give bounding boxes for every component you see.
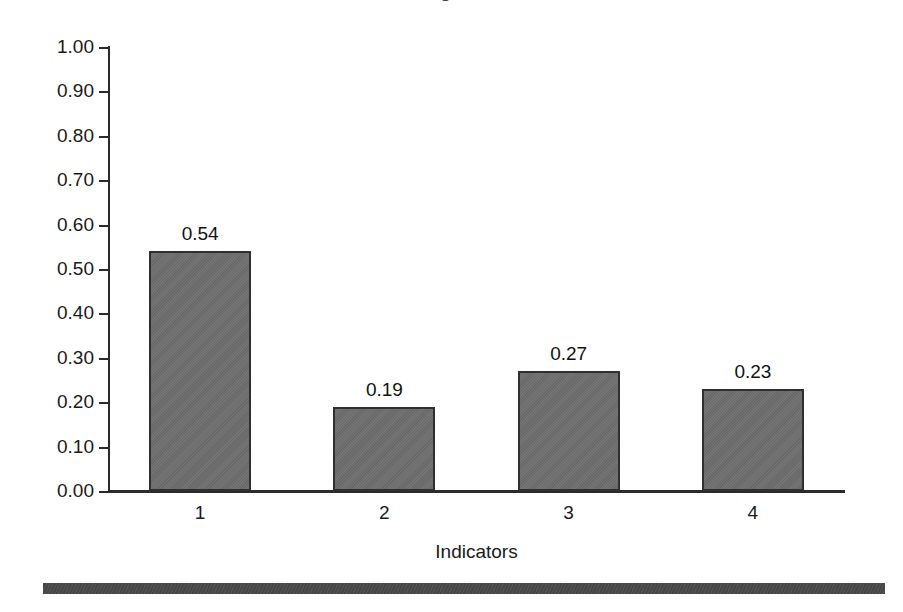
y-axis-tick-mark — [99, 402, 108, 404]
bar-value-label: 0.27 — [518, 343, 620, 365]
y-axis-tick-label: 0.70 — [57, 169, 94, 190]
y-axis-tick-mark — [99, 313, 108, 315]
bar-value-label: 0.19 — [333, 379, 435, 401]
y-axis-tick-label: 0.10 — [57, 436, 94, 457]
y-axis-tick-mark — [99, 225, 108, 227]
y-axis-tick-label: 0.80 — [57, 125, 94, 146]
bar-value-label: 0.23 — [702, 361, 804, 383]
y-axis-tick-mark — [99, 91, 108, 93]
y-axis-tick-label: 0.90 — [57, 80, 94, 101]
y-axis-tick-label: 0.40 — [57, 302, 94, 323]
y-axis-tick-label: 0.30 — [57, 347, 94, 368]
y-axis-tick-mark — [99, 180, 108, 182]
y-axis-tick-mark — [99, 47, 108, 49]
plot-area: 1.000.900.800.700.600.500.400.300.200.10… — [108, 47, 845, 491]
bar[interactable] — [702, 389, 804, 491]
bar-value-label: 0.54 — [149, 223, 251, 245]
bar[interactable] — [333, 407, 435, 491]
y-axis-tick-label: 1.00 — [57, 36, 94, 57]
y-axis-tick-mark — [99, 269, 108, 271]
y-axis-tick-label: 0.20 — [57, 391, 94, 412]
bar-chart-figure: Figure 1.000.900.800.700.600.500.400.300… — [0, 0, 903, 612]
y-axis-tick-mark — [99, 358, 108, 360]
bar[interactable] — [518, 371, 620, 491]
y-axis-tick-mark — [99, 491, 108, 493]
bottom-divider-rule — [43, 583, 885, 594]
y-axis-tick-label: 0.00 — [57, 480, 94, 501]
x-axis-tick-label: 4 — [702, 502, 804, 524]
x-axis-title: Indicators — [108, 540, 845, 564]
bar[interactable] — [149, 251, 251, 491]
x-axis-tick-label: 1 — [149, 502, 251, 524]
y-axis-tick-label: 0.60 — [57, 214, 94, 235]
y-axis-tick-mark — [99, 447, 108, 449]
chart-title-remnant: Figure — [0, 0, 903, 8]
x-axis-tick-label: 2 — [333, 502, 435, 524]
y-axis-tick-label: 0.50 — [57, 258, 94, 279]
x-axis-tick-label: 3 — [518, 502, 620, 524]
y-axis-tick-mark — [99, 136, 108, 138]
